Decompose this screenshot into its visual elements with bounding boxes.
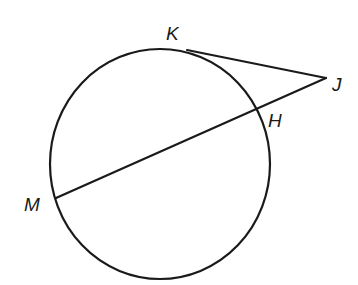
secant-segment-mj bbox=[56, 78, 326, 198]
point-label-m: M bbox=[24, 194, 40, 215]
geometry-diagram: K J H M bbox=[0, 0, 358, 285]
circle bbox=[50, 49, 270, 279]
point-label-k: K bbox=[166, 23, 180, 44]
tangent-segment-kj bbox=[187, 50, 326, 78]
point-label-j: J bbox=[331, 74, 342, 95]
point-label-h: H bbox=[268, 110, 282, 131]
